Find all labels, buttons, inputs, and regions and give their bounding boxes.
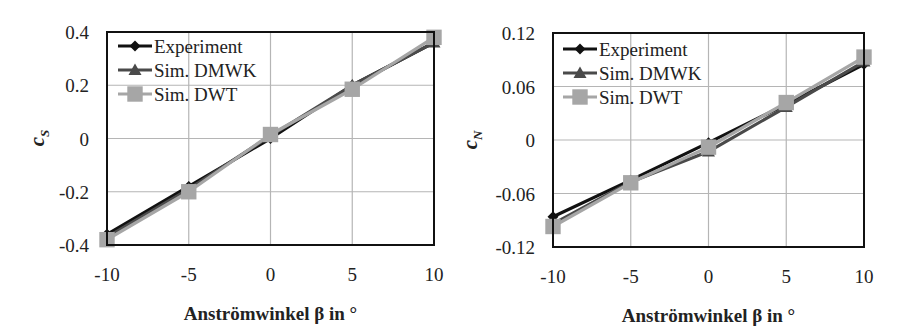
legend-item: Sim. DMWK (118, 60, 257, 81)
x-axis-label: Anströmwinkel β in ° (622, 305, 795, 326)
x-tick-label: 10 (855, 266, 874, 287)
legend-item: Sim. DMWK (563, 63, 702, 84)
legend: ExperimentSim. DMWKSim. DWT (118, 36, 257, 105)
square-marker-icon (345, 82, 360, 97)
chart-cs-svg: 0.40.20-0.2-0.4-10-50510Anströmwinkel β … (0, 0, 451, 331)
legend-item: Sim. DWT (118, 84, 238, 105)
legend-label: Sim. DWT (154, 84, 238, 105)
chart-cn: 0.120.060-0.06-0.12-10-50510Anströmwinke… (451, 0, 902, 331)
y-tick-label: -0.12 (495, 237, 535, 258)
square-marker-icon (127, 86, 142, 101)
y-tick-label: 0.06 (502, 77, 535, 98)
legend-label: Sim. DMWK (154, 60, 257, 81)
y-axis-label-sub: S (37, 130, 52, 137)
y-tick-label: 0.12 (502, 23, 535, 44)
y-tick-label: -0.06 (495, 184, 535, 205)
x-tick-label: -10 (540, 266, 565, 287)
x-tick-label: -5 (181, 264, 197, 285)
y-tick-label: 0 (526, 130, 536, 151)
y-axis-label-sub: N (470, 130, 485, 141)
square-marker-icon (263, 127, 278, 142)
legend: ExperimentSim. DMWKSim. DWT (563, 39, 702, 108)
legend-label: Experiment (154, 36, 243, 57)
y-tick-label: -0.4 (59, 235, 90, 256)
x-tick-label: 0 (704, 266, 714, 287)
square-marker-icon (623, 175, 638, 190)
y-axis-label: cS (25, 130, 52, 147)
x-tick-label: 5 (782, 266, 792, 287)
legend-item: Experiment (563, 39, 688, 60)
y-tick-label: -0.2 (59, 182, 89, 203)
y-tick-label: 0.2 (65, 75, 89, 96)
legend-item: Experiment (118, 36, 243, 57)
x-tick-label: -10 (94, 264, 119, 285)
legend-label: Sim. DMWK (599, 63, 702, 84)
diamond-marker-icon (575, 44, 586, 55)
square-marker-icon (779, 95, 794, 110)
square-marker-icon (572, 89, 587, 104)
x-tick-label: 10 (425, 264, 444, 285)
x-axis-label: Anströmwinkel β in ° (184, 303, 357, 324)
y-tick-label: 0 (80, 129, 90, 150)
legend-label: Sim. DWT (599, 87, 683, 108)
chart-cn-svg: 0.120.060-0.06-0.12-10-50510Anströmwinke… (451, 0, 902, 331)
legend-label: Experiment (599, 39, 688, 60)
square-marker-icon (181, 184, 196, 199)
x-tick-label: 5 (348, 264, 358, 285)
square-marker-icon (701, 139, 716, 154)
chart-cs: 0.40.20-0.2-0.4-10-50510Anströmwinkel β … (0, 0, 451, 331)
legend-item: Sim. DWT (563, 87, 683, 108)
y-tick-label: 0.4 (65, 22, 89, 43)
y-axis-label: cN (458, 130, 485, 149)
x-tick-label: -5 (623, 266, 639, 287)
x-tick-label: 0 (266, 264, 276, 285)
diamond-marker-icon (130, 41, 141, 52)
